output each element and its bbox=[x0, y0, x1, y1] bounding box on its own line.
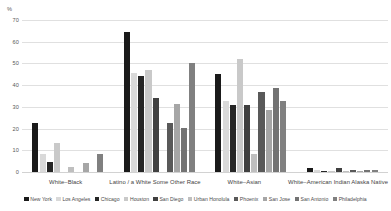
y-axis: % 010203040506070 bbox=[0, 6, 22, 176]
x-axis-category-label: White–American Indian Alaska Native bbox=[288, 178, 388, 186]
legend-label: San Antonio bbox=[301, 196, 329, 202]
bar[interactable] bbox=[189, 63, 195, 172]
bar[interactable] bbox=[40, 154, 46, 172]
legend-swatch-icon bbox=[56, 197, 60, 201]
y-tick-label-10: 10 bbox=[13, 147, 19, 153]
plot-area bbox=[22, 20, 388, 172]
legend-swatch-icon bbox=[95, 197, 99, 201]
legend-label: Los Angeles bbox=[62, 196, 90, 202]
bar[interactable] bbox=[307, 168, 313, 172]
legend-swatch-icon bbox=[234, 197, 238, 201]
bar-group bbox=[114, 20, 206, 172]
bar-group bbox=[205, 20, 297, 172]
bar[interactable] bbox=[145, 70, 151, 172]
y-tick-label-20: 20 bbox=[13, 126, 19, 132]
y-tick-label-60: 60 bbox=[13, 39, 19, 45]
legend-swatch-icon bbox=[153, 197, 157, 201]
bar[interactable] bbox=[181, 128, 187, 173]
x-axis-category-label: White–Black bbox=[22, 178, 109, 186]
y-tick-label-30: 30 bbox=[13, 104, 19, 110]
bar[interactable] bbox=[167, 123, 173, 172]
x-axis-category-label: White–Asian bbox=[201, 178, 288, 186]
bar[interactable] bbox=[372, 170, 378, 172]
legend-item[interactable]: Phoenix bbox=[234, 196, 259, 202]
bar[interactable] bbox=[350, 170, 356, 172]
bar[interactable] bbox=[124, 32, 130, 172]
bar[interactable] bbox=[251, 154, 257, 172]
bar[interactable] bbox=[97, 154, 103, 172]
bar[interactable] bbox=[280, 101, 286, 172]
legend-item[interactable]: Los Angeles bbox=[56, 196, 90, 202]
legend-item[interactable]: San Jose bbox=[263, 196, 290, 202]
legend-swatch-icon bbox=[333, 197, 337, 201]
bar-chart: % 010203040506070 White–BlackLatino / a … bbox=[0, 0, 391, 211]
legend-swatch-icon bbox=[188, 197, 192, 201]
bar[interactable] bbox=[237, 59, 243, 172]
legend-item[interactable]: Houston bbox=[124, 196, 149, 202]
y-tick-label-0: 0 bbox=[16, 169, 19, 175]
legend-item[interactable]: Urban Honolula bbox=[188, 196, 230, 202]
bar[interactable] bbox=[138, 76, 144, 172]
bar[interactable] bbox=[131, 73, 137, 172]
y-tick-label-50: 50 bbox=[13, 60, 19, 66]
bar[interactable] bbox=[32, 123, 38, 172]
legend-label: San Diego bbox=[159, 196, 183, 202]
bar[interactable] bbox=[364, 170, 370, 172]
legend-swatch-icon bbox=[295, 197, 299, 201]
legend-label: New York bbox=[30, 196, 52, 202]
legend-label: San Jose bbox=[269, 196, 290, 202]
bar[interactable] bbox=[153, 98, 159, 172]
bar[interactable] bbox=[68, 167, 74, 172]
y-axis-unit-label: % bbox=[7, 6, 12, 12]
bar[interactable] bbox=[223, 101, 229, 172]
legend-swatch-icon bbox=[24, 197, 28, 201]
bar[interactable] bbox=[258, 92, 264, 172]
bar[interactable] bbox=[266, 110, 272, 172]
plot-area-wrapper: % 010203040506070 bbox=[0, 6, 391, 176]
bar-group bbox=[22, 20, 114, 172]
bar[interactable] bbox=[174, 104, 180, 172]
bar[interactable] bbox=[47, 162, 53, 172]
legend-label: Urban Honolula bbox=[194, 196, 230, 202]
gridline-0 bbox=[22, 172, 388, 173]
legend-item[interactable]: Philadelphia bbox=[333, 196, 367, 202]
legend-item[interactable]: San Diego bbox=[153, 196, 183, 202]
legend-item[interactable]: Chicago bbox=[95, 196, 120, 202]
y-tick-label-40: 40 bbox=[13, 82, 19, 88]
legend-item[interactable]: San Antonio bbox=[295, 196, 329, 202]
bar[interactable] bbox=[54, 143, 60, 172]
y-tick-label-70: 70 bbox=[13, 17, 19, 23]
bar[interactable] bbox=[215, 74, 221, 172]
legend-label: Chicago bbox=[101, 196, 120, 202]
bar[interactable] bbox=[357, 171, 363, 172]
chart-legend: New YorkLos AngelesChicagoHoustonSan Die… bbox=[0, 196, 391, 202]
legend-label: Philadelphia bbox=[339, 196, 367, 202]
legend-label: Houston bbox=[130, 196, 149, 202]
legend-swatch-icon bbox=[124, 197, 128, 201]
bar-group bbox=[297, 20, 389, 172]
x-axis-category-labels: White–BlackLatino / a White Some Other R… bbox=[22, 178, 388, 186]
bar[interactable] bbox=[328, 171, 334, 172]
x-axis-category-label: Latino / a White Some Other Race bbox=[109, 178, 200, 186]
bar-groups bbox=[22, 20, 388, 172]
bar[interactable] bbox=[343, 171, 349, 172]
legend-swatch-icon bbox=[263, 197, 267, 201]
bar[interactable] bbox=[273, 88, 279, 172]
legend-label: Phoenix bbox=[240, 196, 259, 202]
bar[interactable] bbox=[83, 163, 89, 172]
legend-item[interactable]: New York bbox=[24, 196, 52, 202]
bar[interactable] bbox=[244, 105, 250, 172]
bar[interactable] bbox=[230, 105, 236, 172]
bar[interactable] bbox=[336, 168, 342, 172]
bar[interactable] bbox=[314, 170, 320, 172]
bar[interactable] bbox=[321, 171, 327, 172]
